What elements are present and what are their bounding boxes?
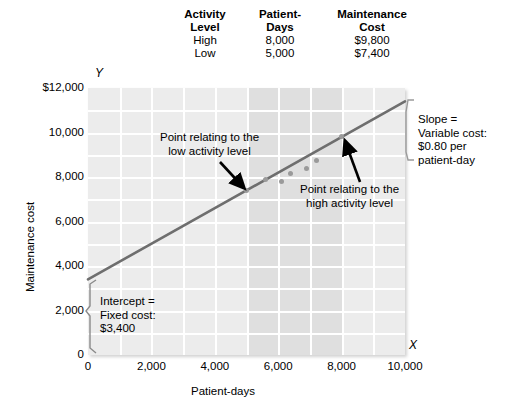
column-header-activity-level: Activity Level <box>168 8 242 34</box>
annotation-line-4: patient-day <box>418 154 487 168</box>
x-tick-label: 8,000 <box>327 360 356 372</box>
data-point <box>304 166 309 171</box>
annotation-line-1: Point relating to the <box>300 183 399 197</box>
annotation-line-3: $3,400 <box>100 322 156 336</box>
header-line-2: Cost <box>324 21 420 34</box>
header-line-1: Patient- <box>248 8 312 21</box>
slope-brace <box>406 100 414 160</box>
y-axis-title: Maintenance cost <box>24 202 36 292</box>
cell-maintenance-cost: $9,800 <box>318 34 426 47</box>
table-header-row: Activity Level Patient- Days Maintenance… <box>168 8 426 34</box>
annotation-line-1: Slope = <box>418 113 487 127</box>
x-axis-letter: X <box>409 338 417 352</box>
cell-patient-days: 5,000 <box>242 47 318 60</box>
y-tick-label: 4,000 <box>55 259 84 271</box>
y-axis-tick-group: $12,000 10,000 8,000 6,000 4,000 2,000 0 <box>0 0 84 408</box>
y-axis-letter: Y <box>95 66 103 80</box>
y-tick-label: $12,000 <box>42 81 84 93</box>
header-line-2: Level <box>174 21 236 34</box>
annotation-slope: Slope = Variable cost: $0.80 per patient… <box>418 113 487 167</box>
annotation-line-2: high activity level <box>300 197 399 211</box>
x-tick-label: 2,000 <box>137 360 166 372</box>
table-row: Low 5,000 $7,400 <box>168 47 426 60</box>
y-tick-label: 6,000 <box>55 215 84 227</box>
cell-maintenance-cost: $7,400 <box>318 47 426 60</box>
column-header-patient-days: Patient- Days <box>242 8 318 34</box>
x-tick-label: 10,000 <box>387 360 422 372</box>
header-line-1: Maintenance <box>324 8 420 21</box>
annotation-line-3: $0.80 per <box>418 140 487 154</box>
data-point <box>279 179 284 184</box>
annotation-line-2: Fixed cost: <box>100 309 156 323</box>
data-point <box>263 177 268 182</box>
data-point <box>314 158 319 163</box>
y-tick-label: 10,000 <box>49 126 84 138</box>
annotation-line-2: Variable cost: <box>418 127 487 141</box>
header-line-1: Activity <box>174 8 236 21</box>
cell-activity-level: Low <box>168 47 242 60</box>
annotation-line-2: low activity level <box>160 145 259 159</box>
y-tick-label: 2,000 <box>55 304 84 316</box>
annotation-line-1: Intercept = <box>100 295 156 309</box>
annotation-high-activity: Point relating to the high activity leve… <box>300 183 399 210</box>
chart-figure: Activity Level Patient- Days Maintenance… <box>0 0 521 408</box>
cell-patient-days: 8,000 <box>242 34 318 47</box>
annotation-low-activity: Point relating to the low activity level <box>160 131 259 158</box>
column-header-maintenance-cost: Maintenance Cost <box>318 8 426 34</box>
cell-activity-level: High <box>168 34 242 47</box>
x-tick-label: 6,000 <box>264 360 293 372</box>
x-tick-label: 0 <box>85 360 91 372</box>
activity-data-table: Activity Level Patient- Days Maintenance… <box>168 8 426 60</box>
annotation-intercept: Intercept = Fixed cost: $3,400 <box>100 295 156 336</box>
y-tick-label: 8,000 <box>55 170 84 182</box>
header-line-2: Days <box>248 21 312 34</box>
table-row: High 8,000 $9,800 <box>168 34 426 47</box>
x-tick-label: 4,000 <box>200 360 229 372</box>
y-tick-label: 0 <box>78 348 84 360</box>
x-axis-title-text: Patient-days <box>191 385 255 397</box>
annotation-line-1: Point relating to the <box>160 131 259 145</box>
x-axis-title: Patient-days <box>0 385 521 397</box>
data-point-low <box>244 188 249 193</box>
